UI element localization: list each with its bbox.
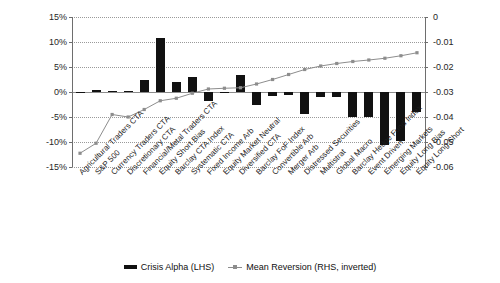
line-marker bbox=[271, 78, 274, 81]
legend-item[interactable]: Mean Reversion (RHS, inverted) bbox=[228, 262, 376, 272]
line-marker bbox=[351, 60, 354, 63]
line-marker bbox=[335, 62, 338, 65]
right-axis-tick-mark bbox=[425, 67, 428, 68]
line-marker bbox=[111, 113, 114, 116]
legend-label: Crisis Alpha (LHS) bbox=[141, 262, 215, 272]
right-axis-tick-mark bbox=[425, 117, 428, 118]
right-axis-tick-label: -0.06 bbox=[433, 163, 467, 172]
line-marker bbox=[143, 108, 146, 111]
left-axis-tick-label: -15% bbox=[33, 163, 67, 172]
crisis-alpha-mean-reversion-chart: 15%10%5%0%-5%-10%-15% -0.06-0.05-0.04-0.… bbox=[0, 0, 500, 283]
line-marker bbox=[239, 86, 242, 89]
line-marker bbox=[94, 142, 97, 145]
line-series-mean-reversion bbox=[72, 17, 425, 167]
left-axis-tick-label: -5% bbox=[33, 113, 67, 122]
line-marker bbox=[287, 73, 290, 76]
line-marker bbox=[383, 57, 386, 60]
legend-line-swatch-icon bbox=[228, 264, 242, 271]
line-marker bbox=[175, 97, 178, 100]
legend-item[interactable]: Crisis Alpha (LHS) bbox=[124, 262, 215, 272]
line-marker bbox=[399, 54, 402, 57]
right-axis-tick-mark bbox=[425, 142, 428, 143]
right-axis-tick-label: 0 bbox=[433, 13, 467, 22]
left-axis-tick-label: 15% bbox=[33, 13, 67, 22]
right-axis-tick-mark bbox=[425, 42, 428, 43]
left-axis-tick-label: -10% bbox=[33, 138, 67, 147]
line-marker bbox=[223, 87, 226, 90]
right-axis-tick-mark bbox=[425, 167, 428, 168]
legend-label: Mean Reversion (RHS, inverted) bbox=[246, 262, 376, 272]
right-axis-tick-label: -0.05 bbox=[433, 138, 467, 147]
line-marker bbox=[303, 68, 306, 71]
line-marker bbox=[415, 51, 418, 54]
right-axis-tick-mark bbox=[425, 92, 428, 93]
line-marker bbox=[255, 82, 258, 85]
line-marker bbox=[191, 92, 194, 95]
line-marker bbox=[78, 152, 81, 155]
left-axis-tick-label: 5% bbox=[33, 63, 67, 72]
mean-reversion-line bbox=[80, 53, 417, 154]
right-axis-tick-label: -0.01 bbox=[433, 38, 467, 47]
chart-legend: Crisis Alpha (LHS)Mean Reversion (RHS, i… bbox=[0, 262, 500, 272]
line-marker bbox=[319, 64, 322, 67]
left-axis-tick-label: 10% bbox=[33, 38, 67, 47]
right-axis-tick-mark bbox=[425, 17, 428, 18]
right-axis-tick-label: -0.02 bbox=[433, 63, 467, 72]
line-marker bbox=[127, 115, 130, 118]
gridline bbox=[72, 167, 425, 168]
legend-bar-swatch-icon bbox=[124, 265, 137, 269]
left-axis-tick-mark bbox=[69, 167, 72, 168]
line-marker bbox=[207, 87, 210, 90]
line-marker bbox=[159, 99, 162, 102]
right-axis-tick-label: -0.04 bbox=[433, 113, 467, 122]
line-marker bbox=[367, 58, 370, 61]
left-axis-tick-label: 0% bbox=[33, 88, 67, 97]
right-axis-tick-label: -0.03 bbox=[433, 88, 467, 97]
